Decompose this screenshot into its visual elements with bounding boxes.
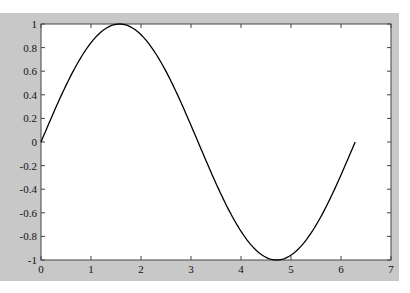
x-tick-label: 4 bbox=[238, 263, 244, 275]
y-tick-label: 0.8 bbox=[23, 42, 37, 54]
y-tick-label: 0.6 bbox=[23, 65, 37, 77]
y-tick-label: -0.2 bbox=[20, 160, 37, 172]
y-tick-label: -0.6 bbox=[20, 207, 38, 219]
y-tick-label: -0.4 bbox=[20, 183, 38, 195]
y-tick-label: -1 bbox=[28, 254, 37, 266]
y-tick-label: 0.2 bbox=[23, 112, 37, 124]
y-tick-label: 0 bbox=[32, 136, 38, 148]
x-tick-label: 1 bbox=[88, 263, 94, 275]
x-tick-label: 3 bbox=[188, 263, 194, 275]
y-tick-label: 0.4 bbox=[23, 89, 37, 101]
x-tick-label: 0 bbox=[38, 263, 44, 275]
x-tick-label: 7 bbox=[388, 263, 394, 275]
y-tick-label: 1 bbox=[32, 18, 38, 30]
x-tick-label: 5 bbox=[288, 263, 294, 275]
plot-area bbox=[41, 24, 391, 260]
x-tick-label: 2 bbox=[138, 263, 144, 275]
y-tick-label: -0.8 bbox=[20, 230, 38, 242]
x-tick-label: 6 bbox=[338, 263, 344, 275]
line-chart: 01234567-1-0.8-0.6-0.4-0.200.20.40.60.81 bbox=[0, 0, 410, 293]
